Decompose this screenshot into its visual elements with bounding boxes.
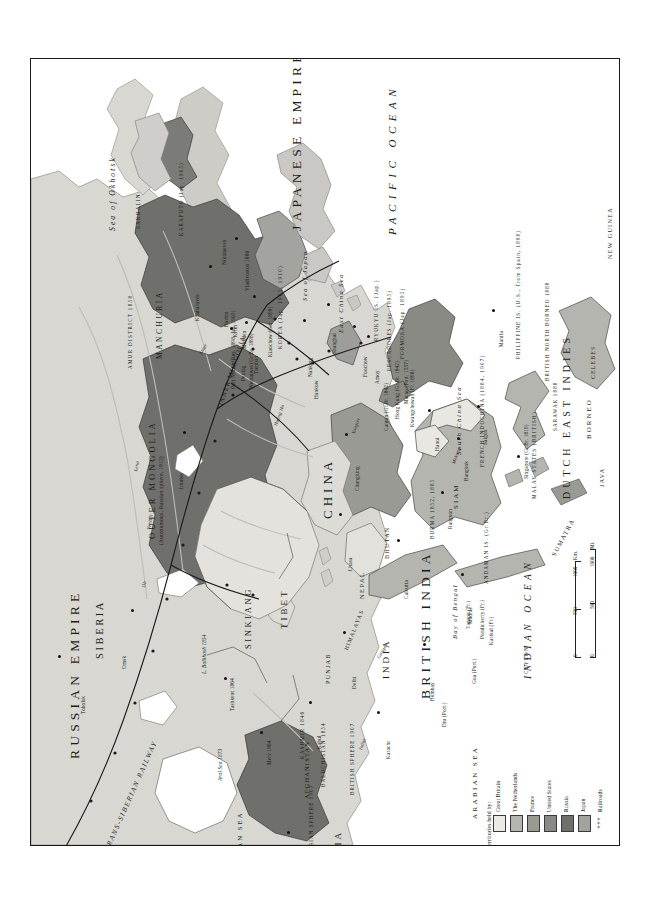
legend-label-japan: Japan — [580, 799, 586, 813]
legend-swatch-france — [527, 815, 540, 832]
scale-km-unit: Km. — [572, 551, 578, 560]
scale-mi-tick-0 — [590, 657, 596, 658]
legend-label-great-britain: Great Britain — [495, 781, 501, 812]
scale-km-label-500: 500 — [572, 607, 578, 615]
scale-km-label-1000: 1000 — [572, 567, 578, 577]
legend-swatch-japan — [578, 815, 591, 832]
scale-mi-label-0: 0 — [589, 654, 595, 657]
scale-mi-tick-1000 — [590, 549, 596, 550]
legend-railroad-symbol: +++ — [595, 817, 603, 829]
map-vector-canvas — [31, 59, 619, 845]
scale-km-label-0: 0 — [572, 654, 578, 657]
legend-label-netherlands: The Netherlands — [512, 773, 518, 812]
legend-label-france: France — [529, 796, 535, 812]
page-root: RUSSIAN EMPIRE JAPANESE EMPIRE BRITISH I… — [0, 0, 651, 902]
scale-km-tick-1000 — [575, 561, 581, 562]
legend-swatch-russia — [561, 815, 574, 832]
legend-swatch-netherlands — [510, 815, 523, 832]
scale-mi-label-1000: 1000 — [589, 557, 595, 567]
scale-km-tick-0 — [575, 657, 581, 658]
scale-mi-unit: Mi. — [589, 542, 595, 549]
legend-swatch-great-britain — [493, 815, 506, 832]
legend-swatch-united-states — [544, 815, 557, 832]
legend-label-united-states: United States — [546, 780, 552, 812]
legend-title: Territories held by: — [486, 802, 492, 846]
scale-mi-label-500: 500 — [589, 601, 595, 609]
legend-label-railroads: Railroads — [597, 789, 603, 812]
map-legend: Territories held by: Great Britain The N… — [483, 785, 613, 846]
legend-label-russia: Russia — [563, 796, 569, 812]
scale-bars: 0 500 1000 Km. 0 500 1000 Mi. — [551, 547, 615, 679]
map-frame: RUSSIAN EMPIRE JAPANESE EMPIRE BRITISH I… — [30, 58, 620, 846]
